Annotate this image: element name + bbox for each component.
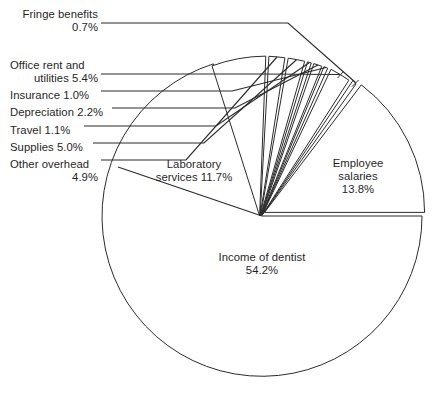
label-laboratory-services-line1: Laboratory (142, 158, 246, 171)
label-income-of-dentist-value: 54.2% (192, 264, 332, 277)
label-travel: Travel 1.1% (10, 124, 120, 137)
pie-chart-figure: Fringe benefits 0.7% Office rent and uti… (0, 0, 437, 400)
label-other-overhead-value: 4.9% (6, 171, 98, 184)
label-income-of-dentist-line1: Income of dentist (192, 251, 332, 264)
label-other-overhead-line1: Other overhead (10, 158, 120, 171)
label-employee-salaries-line2: salaries (318, 170, 398, 183)
label-employee-salaries-line1: Employee (318, 157, 398, 170)
label-employee-salaries-value: 13.8% (318, 183, 398, 196)
label-depreciation: Depreciation 2.2% (10, 106, 130, 119)
label-fringe-benefits-value: 0.7% (6, 21, 98, 34)
leader-line-office-rent (101, 74, 340, 75)
label-office-rent-value: utilities 5.4% (6, 72, 98, 85)
label-insurance: Insurance 1.0% (10, 89, 120, 102)
label-office-rent-line1: Office rent and (10, 59, 120, 72)
label-supplies: Supplies 5.0% (10, 141, 120, 154)
label-laboratory-services-value: services 11.7% (142, 171, 246, 184)
label-fringe-benefits-line1: Fringe benefits (6, 8, 98, 21)
